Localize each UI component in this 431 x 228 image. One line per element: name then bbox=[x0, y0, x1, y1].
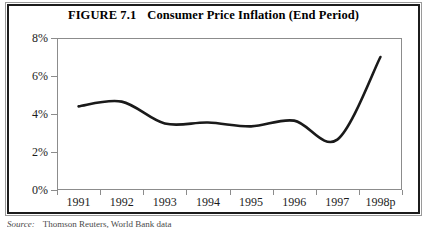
x-axis-tick bbox=[186, 190, 187, 195]
x-axis-tick bbox=[143, 190, 144, 195]
x-axis-label: 1992 bbox=[110, 196, 134, 209]
figure-title-text: Consumer Price Inflation (End Period) bbox=[147, 8, 359, 22]
x-axis-tick bbox=[316, 190, 317, 195]
source-note: Source:Thomson Reuters, World Bank data bbox=[7, 219, 172, 228]
x-axis-tick bbox=[230, 190, 231, 195]
chart-series-layer bbox=[57, 38, 402, 190]
x-axis-tick bbox=[273, 190, 274, 195]
y-axis-label: 0% bbox=[8, 184, 48, 196]
x-axis-tick bbox=[359, 190, 360, 195]
figure-number: FIGURE 7.1 bbox=[68, 8, 136, 22]
x-axis-label: 1991 bbox=[67, 196, 91, 209]
y-axis-label: 6% bbox=[8, 70, 48, 82]
x-axis-label: 1997 bbox=[325, 196, 349, 209]
x-axis-tick bbox=[402, 190, 403, 195]
figure-container: FIGURE 7.1Consumer Price Inflation (End … bbox=[0, 0, 431, 228]
x-axis-label: 1994 bbox=[196, 196, 220, 209]
source-text: Thomson Reuters, World Bank data bbox=[43, 219, 172, 228]
source-label: Source: bbox=[7, 219, 35, 228]
x-axis-label: 1993 bbox=[153, 196, 177, 209]
x-axis-label: 1996 bbox=[282, 196, 306, 209]
x-axis-tick bbox=[57, 190, 58, 195]
y-axis-label: 4% bbox=[8, 108, 48, 120]
x-axis-tick bbox=[100, 190, 101, 195]
y-axis-label: 2% bbox=[8, 146, 48, 158]
x-axis-label: 1995 bbox=[239, 196, 263, 209]
y-axis-label: 8% bbox=[8, 32, 48, 44]
x-axis-label: 1998p bbox=[365, 196, 395, 209]
figure-title: FIGURE 7.1Consumer Price Inflation (End … bbox=[7, 8, 420, 23]
inflation-line bbox=[79, 57, 381, 142]
